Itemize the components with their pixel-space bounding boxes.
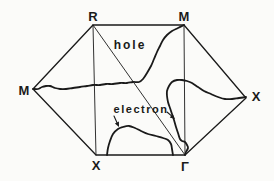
electron-dome-curve	[107, 126, 173, 155]
electron-pocket-X-curve	[167, 80, 246, 155]
label-X-right: X	[252, 89, 261, 104]
label-M-left: M	[19, 83, 30, 98]
electron-arrow-left-shaft	[114, 116, 117, 122]
label-M-top-right: M	[179, 9, 190, 24]
line-M-Gamma	[184, 25, 185, 155]
label-Gamma-bottom: Γ	[181, 159, 189, 174]
label-hole: hole	[114, 38, 147, 52]
fermi-surface-figure: RMMXXΓholeelectron	[0, 0, 274, 181]
label-X-bottom: X	[92, 158, 101, 173]
brillouin-zone-diagram: RMMXXΓholeelectron	[0, 0, 274, 181]
hole-surface-curve	[33, 25, 184, 89]
line-R-X	[93, 25, 96, 155]
label-electron: electron	[114, 103, 169, 115]
label-R-top: R	[88, 9, 98, 24]
